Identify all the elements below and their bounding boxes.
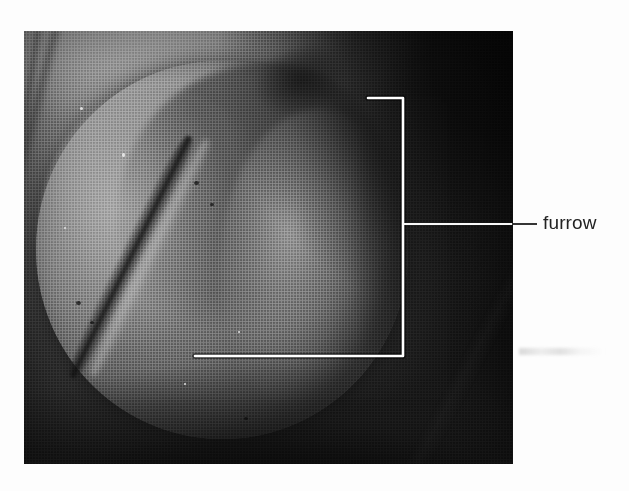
figure-root: furrow [0,0,629,491]
plate-vignette [24,31,513,464]
scan-smudge-artifact [519,348,605,355]
furrow-label: furrow [543,212,597,234]
micrograph-photo [24,31,513,464]
